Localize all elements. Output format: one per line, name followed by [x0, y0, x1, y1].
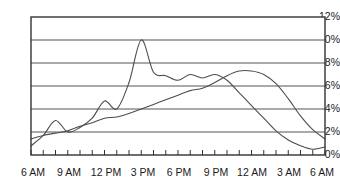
- plot-area: [0, 0, 340, 182]
- violent-crime-chart: 12% 10% 8% 6% 4% 2% 0% Violent crime Und…: [0, 0, 340, 182]
